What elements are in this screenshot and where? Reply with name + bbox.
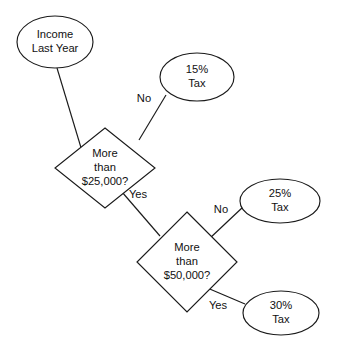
node-start[interactable]: Income Last Year (17, 16, 93, 68)
edge-label-no-25000: No (137, 92, 151, 104)
edge-label-yes-25000: Yes (129, 188, 148, 200)
decision1-label-line1: More (92, 147, 118, 159)
start-label-line2: Last Year (32, 42, 79, 54)
tax25-label-line2: Tax (271, 201, 289, 213)
decision2-label-line2: than (176, 255, 198, 267)
tax30-label-line2: Tax (272, 313, 290, 325)
connector-start-to-decision1 (57, 68, 82, 151)
decision2-label-line1: More (174, 241, 200, 253)
decision2-label-line3: $50,000? (164, 269, 211, 281)
tax15-label-line2: Tax (188, 77, 206, 89)
tax25-label-line1: 25% (269, 187, 291, 199)
tax-decision-flowchart: Income Last Year More than $25,000? More… (0, 0, 342, 356)
edge-label-yes-50000: Yes (209, 299, 228, 311)
node-outcome-15-tax[interactable]: 15% Tax (160, 53, 234, 101)
tax30-label-line1: 30% (270, 299, 292, 311)
node-outcome-30-tax[interactable]: 30% Tax (243, 291, 319, 335)
tax15-label-line1: 15% (186, 63, 208, 75)
node-outcome-25-tax[interactable]: 25% Tax (240, 179, 320, 223)
edge-label-no-50000: No (214, 203, 228, 215)
start-label-line1: Income (37, 28, 74, 40)
decision1-label-line2: than (94, 161, 116, 173)
decision1-label-line3: $25,000? (82, 175, 129, 187)
flowchart-canvas: Income Last Year More than $25,000? More… (0, 0, 342, 356)
